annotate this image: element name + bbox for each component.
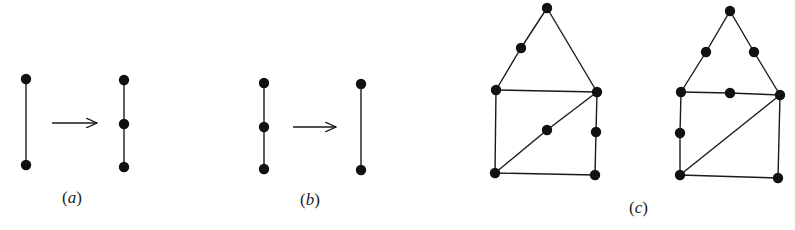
panel-c-graph-2-edge [680, 92, 681, 133]
panel-c-graph-2-vertex [775, 90, 785, 100]
panel-c-graph-2-edge [730, 11, 754, 52]
panel-c-graph-2-vertex [773, 173, 783, 183]
panel-c-graph-2-edge [730, 93, 780, 95]
panel-c-graph-2-edge [681, 52, 706, 92]
panel-c-graph-1-vertex [590, 170, 600, 180]
panel-c-graph-1-edge [521, 8, 547, 48]
panel-c-graph-1-edge [547, 92, 597, 130]
panel-a-after-vertex [119, 162, 129, 172]
panel-b-after-vertex [356, 165, 366, 175]
panel-c-graph-1-edge [595, 132, 596, 175]
panel-a-before-vertex [21, 74, 31, 84]
panel-c-graph-1-vertex [491, 85, 501, 95]
panel-c-graph-2-edge [778, 95, 780, 178]
panel-a-before-vertex [21, 160, 31, 170]
panel-c-graph-1-vertex [542, 3, 552, 13]
panel-c-graph-2-vertex [675, 170, 685, 180]
panel-c-graph-1-edge [596, 92, 597, 132]
panel-c-graph-1-edge [495, 173, 595, 175]
panel-b-before-vertex [259, 164, 269, 174]
arrows [52, 123, 336, 127]
panel-c-graph-1-edge [547, 8, 597, 92]
panel-label-b: (b) [300, 190, 320, 210]
panel-label-a: (a) [62, 188, 82, 208]
panel-a-after-vertex [119, 119, 129, 129]
panel-a-after-vertex [119, 75, 129, 85]
panel-c-graph-1-edge [496, 90, 597, 92]
panel-c-graph-1-vertex [490, 168, 500, 178]
panel-c-graph-2-vertex [725, 6, 735, 16]
panel-c-graph-2-vertex [725, 88, 735, 98]
panel-c-graph-2-vertex [749, 47, 759, 57]
graph-diagram [0, 0, 795, 230]
vertices [21, 3, 785, 183]
edges [26, 8, 780, 178]
panel-c-graph-1-edge [495, 90, 496, 173]
panel-b-before-vertex [259, 78, 269, 88]
panel-c-graph-2-edge [754, 52, 780, 95]
panel-c-graph-2-edge [680, 95, 780, 175]
panel-label-c: (c) [629, 198, 648, 218]
panel-c-graph-2-vertex [676, 87, 686, 97]
panel-c-graph-1-vertex [591, 127, 601, 137]
panel-c-graph-2-edge [681, 92, 730, 93]
panel-c-graph-2-edge [706, 11, 730, 52]
panel-c-graph-2-vertex [675, 128, 685, 138]
panel-c-graph-1-vertex [592, 87, 602, 97]
panel-c-graph-1-edge [496, 48, 521, 90]
panel-b-before-vertex [259, 122, 269, 132]
panel-c-graph-2-edge [680, 175, 778, 178]
panel-b-after-vertex [356, 79, 366, 89]
panel-c-graph-1-edge [495, 130, 547, 173]
panel-c-graph-1-vertex [516, 43, 526, 53]
panel-c-graph-2-vertex [701, 47, 711, 57]
panel-c-graph-1-vertex [542, 125, 552, 135]
